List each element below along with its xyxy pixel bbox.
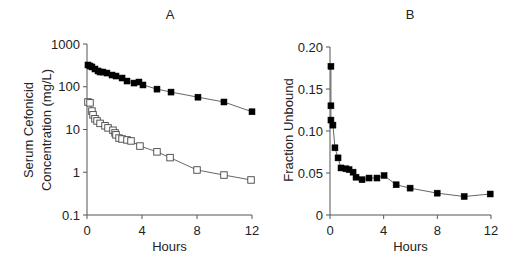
filled-square-marker [335,155,341,161]
filled-square-marker [328,103,334,109]
y-tick-label: 0.20 [298,40,323,55]
panel-b-chart: B00.050.100.150.2004812HoursFraction Unb… [281,7,498,254]
filled-square-marker [359,177,365,183]
figure-canvas: A0.1110100100004812HoursSerum CefonicidC… [0,0,514,266]
open-square-marker [128,138,135,145]
x-tick-label: 8 [434,223,441,238]
y-axis-title: Concentration (mg/L) [39,69,54,191]
panel-title: A [166,7,175,22]
filled-square-marker [168,89,174,95]
filled-square-marker [487,191,493,197]
panel-title: B [406,7,415,22]
y-tick-label: 0.05 [298,166,323,181]
filled-square-marker [330,122,336,128]
x-tick-label: 0 [83,223,90,238]
filled-square-marker [434,190,440,196]
open-square-marker [87,100,94,107]
open-square-marker [167,154,174,161]
y-tick-label: 0.1 [62,208,80,223]
x-axis-title: Hours [393,239,428,254]
filled-square-marker [332,145,338,151]
filled-square-marker [381,173,387,179]
figure: A0.1110100100004812HoursSerum CefonicidC… [0,0,514,266]
filled-square-marker [461,194,467,200]
x-axis-title: Hours [152,239,187,254]
x-tick-label: 12 [245,223,259,238]
filled-square-marker [195,94,201,100]
y-tick-label: 1000 [51,37,80,52]
open-square-marker [221,172,228,179]
y-tick-label: 0 [316,208,323,223]
open-square-marker [194,167,201,174]
filled-square-marker [113,73,119,79]
filled-square-marker [154,86,160,92]
filled-square-marker [249,109,255,115]
y-tick-label: 0.10 [298,124,323,139]
filled-square-marker [124,78,130,84]
y-tick-label: 1 [73,165,80,180]
filled-square-marker [353,174,359,180]
filled-square-marker [328,63,334,69]
panel-a-chart: A0.1110100100004812HoursSerum CefonicidC… [21,7,259,254]
x-tick-label: 4 [380,223,387,238]
x-tick-label: 4 [138,223,145,238]
filled-square-marker [140,82,146,88]
filled-square-marker [374,175,380,181]
x-tick-label: 0 [326,223,333,238]
y-tick-label: 100 [58,79,80,94]
open-square-marker [137,143,144,150]
filled-square-marker [221,99,227,105]
filled-square-marker [407,185,413,191]
y-tick-label: 0.15 [298,82,323,97]
open-square-marker [248,177,255,184]
filled-square-marker [366,175,372,181]
x-tick-label: 8 [193,223,200,238]
y-tick-label: 10 [66,122,80,137]
y-axis-title: Serum Cefonicid [21,82,36,178]
series-line [88,102,251,180]
y-axis-title: Fraction Unbound [281,78,296,181]
x-tick-label: 12 [484,223,498,238]
filled-square-marker [393,182,399,188]
open-square-marker [154,149,161,156]
